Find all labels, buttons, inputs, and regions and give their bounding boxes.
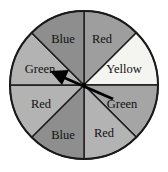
spinner-figure: Red Yellow Green Red Blue Red Green Blue: [0, 0, 168, 172]
spinner-wheel[interactable]: Red Yellow Green Red Blue Red Green Blue: [0, 0, 168, 172]
sector-label-red-left: Red: [31, 97, 52, 111]
sector-label-yellow: Yellow: [106, 62, 142, 76]
sector-label-red-bottom-right: Red: [94, 126, 115, 140]
spinner-arrow-hub: [82, 83, 86, 87]
sector-label-blue-top: Blue: [51, 32, 75, 46]
spinner-stage: Red Yellow Green Red Blue Red Green Blue: [0, 0, 168, 172]
sector-label-red-top-right: Red: [92, 32, 113, 46]
sector-label-green-left: Green: [25, 62, 56, 76]
sector-label-blue-bottom: Blue: [51, 128, 75, 142]
